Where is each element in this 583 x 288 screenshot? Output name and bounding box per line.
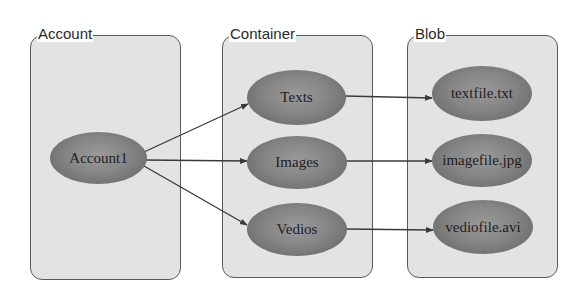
node-vediofile-avi: vediofile.avi: [433, 200, 533, 254]
node-vedios: Vedios: [247, 203, 347, 256]
account-group-label: Account: [37, 26, 93, 42]
node-images: Images: [247, 136, 347, 189]
node-account1: Account1: [50, 132, 147, 184]
container-group-label: Container: [229, 26, 296, 42]
blob-group-label: Blob: [414, 26, 446, 42]
node-imagefile-jpg: imagefile.jpg: [432, 134, 532, 187]
node-textfile-txt: textfile.txt: [432, 66, 532, 121]
node-texts: Texts: [247, 70, 346, 125]
storage-hierarchy-diagram: Account Container Blob Account1 Texts Im…: [0, 0, 583, 288]
